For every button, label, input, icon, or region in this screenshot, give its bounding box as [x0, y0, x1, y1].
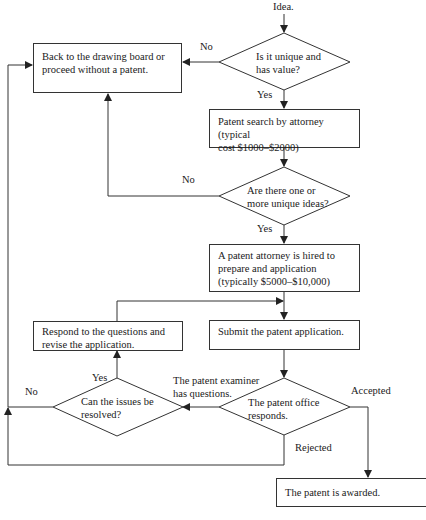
resolve-no-label: No: [25, 385, 38, 398]
patent-search-box: Patent search by attorney (typical cost …: [209, 109, 360, 148]
submit-application-box: Submit the patent application.: [209, 320, 360, 350]
resolve-line-2: resolved?: [81, 408, 154, 421]
office-responds-decision-text: The patent office responds.: [248, 396, 320, 422]
resolve-yes-label: Yes: [92, 371, 107, 384]
unique-yes-label: Yes: [257, 88, 272, 101]
resolve-decision-text: Can the issues be resolved?: [81, 395, 154, 421]
hire-attorney-box: A patent attorney is hired to prepare an…: [209, 244, 360, 292]
unique-ideas-decision-text: Are there one or more unique ideas?: [247, 184, 329, 210]
examiner-line-1: The patent examiner: [173, 374, 259, 387]
examiner-line-2: has questions.: [173, 387, 259, 400]
respond-line-2: revise the application.: [42, 338, 174, 351]
ideas-line-1: Are there one or: [247, 184, 329, 197]
submit-text: Submit the patent application.: [218, 325, 351, 338]
hire-line-3: (typically $5000–$10,000): [218, 275, 351, 288]
ideas-line-2: more unique ideas?: [247, 197, 329, 210]
accepted-label: Accepted: [351, 384, 391, 397]
unique-no-label: No: [200, 40, 213, 53]
search-line-2: cost $1000–$2000): [218, 141, 351, 154]
examiner-questions-label: The patent examiner has questions.: [173, 374, 259, 400]
office-line-2: responds.: [248, 409, 320, 422]
hire-line-2: prepare and application: [218, 262, 351, 275]
back-line-2: proceed without a patent.: [42, 63, 173, 76]
patent-awarded-box: The patent is awarded.: [276, 478, 426, 507]
back-line-1: Back to the drawing board or: [42, 50, 173, 63]
respond-revise-box: Respond to the questions and revise the …: [33, 321, 183, 351]
office-line-1: The patent office: [248, 396, 320, 409]
search-line-1: Patent search by attorney (typical: [218, 115, 351, 141]
awarded-text: The patent is awarded.: [285, 486, 418, 499]
start-label: Idea.: [273, 0, 294, 13]
unique-line-1: Is it unique and: [256, 50, 321, 63]
unique-line-2: has value?: [256, 63, 321, 76]
ideas-no-label: No: [182, 173, 195, 186]
ideas-yes-label: Yes: [257, 222, 272, 235]
hire-line-1: A patent attorney is hired to: [218, 249, 351, 262]
respond-line-1: Respond to the questions and: [42, 325, 174, 338]
back-to-drawing-board-box: Back to the drawing board or proceed wit…: [33, 43, 182, 93]
rejected-label: Rejected: [295, 441, 332, 454]
unique-decision-text: Is it unique and has value?: [256, 50, 321, 76]
resolve-line-1: Can the issues be: [81, 395, 154, 408]
